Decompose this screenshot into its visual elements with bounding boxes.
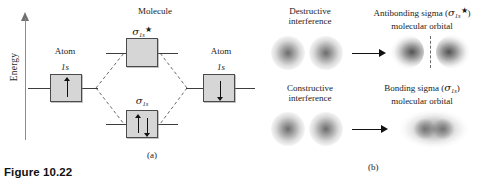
bonding-result-line1-post: ) xyxy=(457,83,460,93)
figure-caption: Figure 10.22 xyxy=(4,166,72,178)
antibonding-orbital-box xyxy=(126,38,158,67)
right-atom-lead-outer xyxy=(235,88,255,89)
left-atom-lead-outer xyxy=(28,88,50,89)
bonding-result-label: Bonding sigma (σ1s) molecular orbital xyxy=(356,83,488,106)
destructive-transform-arrow-head-icon xyxy=(379,49,386,57)
bonding-molecular-orbital-cloud xyxy=(396,108,472,150)
bonding-electron-up-arrow-icon xyxy=(138,118,139,133)
bonding-result-sigma: σ xyxy=(444,82,451,93)
left-atom-lead-inner xyxy=(82,88,98,89)
left-atom-orbital-box xyxy=(50,74,82,102)
right-atom-lead-inner xyxy=(186,88,203,89)
constructive-interference-line2: interference xyxy=(289,93,332,103)
antibonding-result-label: Antibonding sigma (σ1s★) molecular orbit… xyxy=(356,6,488,31)
constructive-transform-arrow-head-icon xyxy=(381,125,388,133)
panel-a-label: (a) xyxy=(147,150,157,160)
nodal-plane-dashed-line xyxy=(430,36,431,68)
bonding-electron-down-arrow-icon xyxy=(147,118,148,133)
panel-b-label: (b) xyxy=(368,162,379,172)
constructive-interference-line1: Constructive xyxy=(287,83,333,93)
destructive-interference-label: Destructive interference xyxy=(268,6,352,26)
antibonding-sigma-symbol: σ xyxy=(132,26,139,37)
antibonding-result-star-icon: ★ xyxy=(461,6,468,15)
constructive-atomic-orbital-right xyxy=(309,112,343,146)
constructive-interference-label: Constructive interference xyxy=(268,83,352,103)
left-atom-electron-up-arrow-icon xyxy=(67,81,68,97)
constructive-atomic-orbital-left xyxy=(271,112,305,146)
antibonding-star-icon: ★ xyxy=(145,25,152,34)
figure-10-22: Energy Molecule Atom Atom σ1s★ σ1s xyxy=(0,0,492,186)
bonding-result-line2: molecular orbital xyxy=(391,96,453,106)
destructive-interference-line2: interference xyxy=(289,16,332,26)
destructive-atomic-orbital-right xyxy=(309,36,343,70)
antibonding-lead-left xyxy=(106,53,126,54)
antibonding-lobe-left xyxy=(386,35,424,69)
bonding-lead-right xyxy=(158,124,178,125)
right-atom-electron-down-arrow-icon xyxy=(220,81,221,97)
constructive-transform-arrow-line xyxy=(352,129,382,130)
bonding-orbital-box xyxy=(126,110,158,138)
antibonding-lead-right xyxy=(158,53,178,54)
left-orbital-label: 1s xyxy=(37,62,93,72)
destructive-interference-line1: Destructive xyxy=(289,6,330,16)
bonding-sigma-label: σ1s xyxy=(114,96,170,109)
antibonding-result-sigma: σ xyxy=(448,7,455,18)
antibonding-result-line2: molecular orbital xyxy=(391,21,453,31)
antibonding-result-line1-pre: Antibonding sigma ( xyxy=(373,8,448,18)
right-orbital-label: 1s xyxy=(193,62,249,72)
right-atom-orbital-box xyxy=(203,74,235,102)
destructive-atomic-orbital-left xyxy=(271,36,305,70)
bonding-result-line1-pre: Bonding sigma ( xyxy=(384,83,444,93)
bonding-sigma-symbol: σ xyxy=(136,95,143,106)
antibonding-result-line1-post: ) xyxy=(468,8,471,18)
bonding-lead-left xyxy=(106,124,126,125)
bonding-sigma-subscript: 1s xyxy=(143,100,149,107)
antibonding-lobe-right xyxy=(436,35,474,69)
destructive-transform-arrow-line xyxy=(352,53,380,54)
